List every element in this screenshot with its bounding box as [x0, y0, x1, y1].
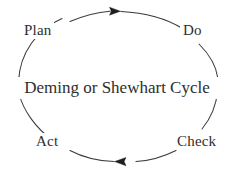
arrow-top-head-icon [110, 7, 121, 15]
arc-segment-top-to-do [121, 11, 183, 28]
arrow-bottom-head-icon [115, 157, 127, 165]
cycle-node-do: Do [180, 22, 205, 39]
arc-segment-check-to-bottom [136, 151, 176, 162]
arc-segment-do-to-check [199, 44, 218, 78]
cycle-node-plan: Plan [21, 22, 54, 39]
deming-cycle-diagram: Plan Do Check Act Deming or Shewhart Cyc… [0, 0, 234, 173]
cycle-center-title: Deming or Shewhart Cycle [0, 77, 234, 99]
cycle-node-act: Act [33, 133, 61, 150]
cycle-node-check: Check [174, 133, 219, 150]
arc-segment-plan-to-top [70, 11, 110, 21]
arc-segment-bottom-to-act [70, 151, 114, 162]
